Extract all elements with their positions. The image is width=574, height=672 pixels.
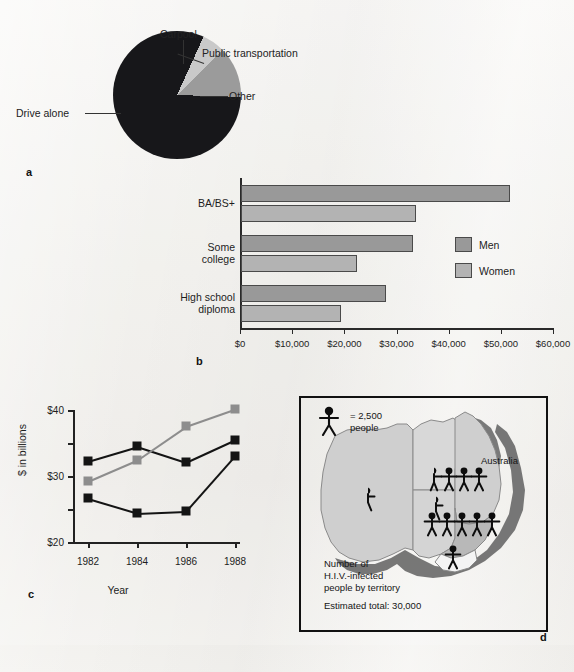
bar-chart-legend: Men Women — [455, 237, 515, 289]
bar-x-tick-label: $60,000 — [536, 338, 570, 349]
bar-x-tick-label: $20,000 — [327, 338, 361, 349]
map-caption-line-1: Number of — [324, 558, 368, 570]
bar-x-tick — [397, 328, 398, 334]
line-x-tick-label: 1986 — [175, 556, 197, 567]
line-segment-series-3 — [185, 456, 235, 513]
map-estimated-total: Estimated total: 30,000 — [324, 600, 421, 612]
carpool-leader-line — [183, 40, 184, 64]
bar-men-1 — [241, 235, 413, 252]
bar-men-2 — [241, 285, 386, 302]
line-y-tick-label: $30 — [47, 471, 64, 482]
bar-x-tick-label: $0 — [235, 338, 246, 349]
panel-letter-c: c — [28, 588, 34, 600]
line-x-axis — [73, 542, 240, 544]
line-chart-plot-area: $20$30$401982198419861988 — [73, 410, 226, 542]
drive-alone-leader-line — [85, 113, 121, 114]
line-marker-series-1-1988 — [231, 435, 240, 444]
pie-label-drive-alone: Drive alone — [16, 107, 69, 119]
bar-x-tick-label: $10,000 — [275, 338, 309, 349]
bar-men-0 — [241, 185, 510, 202]
bar-x-tick-label: $40,000 — [431, 338, 465, 349]
panel-c-line-chart: $20$30$401982198419861988 $ in billions … — [0, 392, 270, 617]
legend-label-men: Men — [479, 239, 499, 251]
bar-x-tick — [449, 328, 450, 334]
bar-category-label: High schooldiploma — [130, 291, 235, 315]
legend-swatch-men — [455, 237, 472, 252]
line-segment-series-3 — [88, 498, 138, 514]
legend-label-women: Women — [479, 265, 515, 277]
line-segment-series-1 — [88, 446, 138, 462]
bar-category-label: Somecollege — [130, 241, 235, 265]
line-marker-series-3-1986 — [182, 506, 191, 515]
line-y-tick-label: $20 — [47, 537, 64, 548]
bar-women-0 — [241, 205, 416, 222]
line-marker-series-1-1986 — [182, 458, 191, 467]
map-key-value: = 2,500 — [350, 410, 382, 422]
line-y-tick — [68, 410, 74, 412]
line-x-tick — [186, 542, 188, 548]
line-chart-x-axis-label: Year — [107, 584, 128, 596]
bar-x-tick — [292, 328, 293, 334]
line-chart-y-axis-label: $ in billions — [16, 424, 28, 476]
line-y-tick-label: $40 — [47, 405, 64, 416]
line-segment-series-2 — [186, 409, 236, 428]
key-person-icon — [318, 406, 340, 436]
map-key-unit: people — [350, 422, 379, 434]
line-marker-series-3-1984 — [133, 508, 142, 517]
line-marker-series-2-1988 — [231, 404, 240, 413]
pictograph-person-nsw-5 — [483, 511, 501, 537]
bar-x-tick — [553, 328, 554, 334]
line-segment-series-2 — [88, 460, 138, 483]
other-leader-line — [200, 96, 228, 97]
bar-category-labels: BA/BS+SomecollegeHigh schooldiploma — [130, 178, 235, 328]
line-y-tick — [68, 542, 74, 544]
line-y-tick — [68, 476, 74, 478]
legend-swatch-women — [455, 263, 472, 278]
line-x-tick-label: 1988 — [224, 556, 246, 567]
line-segment-series-3 — [137, 511, 186, 515]
pictograph-person-south-australia-half — [427, 495, 445, 521]
line-marker-series-2-1982 — [84, 476, 93, 485]
map-frame: = 2,500 people Australia — [299, 396, 548, 632]
line-marker-series-1-1982 — [84, 456, 93, 465]
line-marker-series-3-1988 — [231, 451, 240, 460]
line-x-tick-label: 1984 — [126, 556, 148, 567]
line-x-tick-label: 1982 — [77, 556, 99, 567]
legend-row-women: Women — [455, 263, 515, 278]
pictograph-person-queensland-4 — [470, 466, 488, 492]
pictograph-person-victoria-1 — [444, 544, 462, 570]
line-x-tick — [88, 542, 90, 548]
line-segment-series-1 — [186, 440, 236, 464]
bar-category-label: BA/BS+ — [130, 197, 235, 209]
pie-label-public-transportation: Public transportation — [202, 47, 298, 59]
bar-x-tick — [501, 328, 502, 334]
line-marker-series-1-1984 — [133, 442, 142, 451]
bar-x-tick — [240, 328, 241, 334]
pie-label-carpool: Carpool — [160, 28, 197, 40]
pictograph-person-western-australia-half — [359, 486, 377, 512]
line-marker-series-2-1986 — [182, 421, 191, 430]
panel-a-pie-chart: Carpool Public transportation Other Driv… — [0, 0, 330, 180]
bar-women-1 — [241, 255, 357, 272]
bar-x-tick-label: $50,000 — [484, 338, 518, 349]
panel-letter-d: d — [540, 631, 547, 643]
line-x-tick — [235, 542, 237, 548]
panel-d-map-chart: = 2,500 people Australia — [277, 388, 574, 658]
legend-row-men: Men — [455, 237, 515, 252]
line-marker-series-3-1982 — [84, 494, 93, 503]
line-x-tick — [137, 542, 139, 548]
pie-label-other: Other — [229, 90, 255, 102]
line-y-tick — [68, 509, 74, 511]
bar-x-tick — [344, 328, 345, 334]
bar-women-2 — [241, 305, 341, 322]
map-caption-line-3: people by territory — [324, 582, 400, 594]
line-y-tick — [68, 443, 74, 445]
map-caption-line-2: H.I.V.-infected — [324, 570, 383, 582]
line-marker-series-2-1984 — [133, 455, 142, 464]
panel-letter-b: b — [196, 355, 203, 367]
bar-x-tick-label: $30,000 — [379, 338, 413, 349]
